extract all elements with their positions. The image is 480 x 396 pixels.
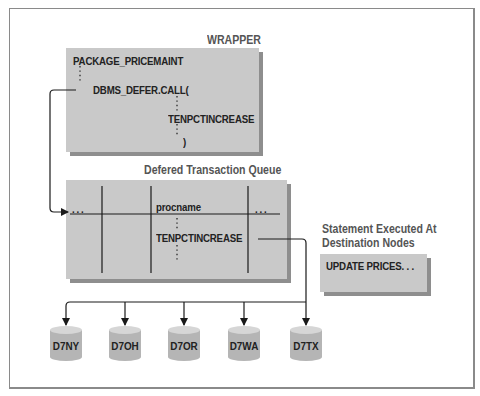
node-label: D7OH (110, 340, 141, 352)
node-label: D7TX (291, 340, 322, 352)
node-d7ny: D7NY (49, 325, 83, 361)
node-label: D7OR (169, 340, 200, 352)
node-label: D7NY (51, 340, 82, 352)
node-d7or: D7OR (167, 325, 201, 361)
node-label: D7WA (229, 340, 260, 352)
node-d7oh: D7OH (108, 325, 142, 361)
node-d7wa: D7WA (227, 325, 261, 361)
node-d7tx: D7TX (289, 325, 323, 361)
